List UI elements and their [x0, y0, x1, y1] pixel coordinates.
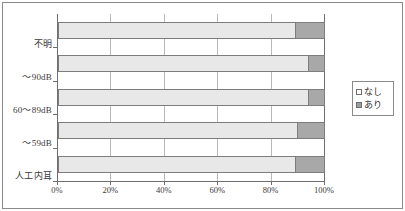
x-axis-label-3: 60%	[209, 185, 225, 195]
x-axis-label-5: 100%	[314, 185, 334, 195]
legend-item-nashi: なし	[356, 86, 390, 98]
chart-legend: なし あり	[352, 81, 394, 116]
x-axis-label-1: 20%	[103, 185, 119, 195]
y-axis-label-4: 人工内耳	[15, 169, 52, 182]
x-axis-label-4: 80%	[263, 185, 279, 195]
legend-swatch-white-icon	[356, 89, 362, 95]
y-axis-label-1: ～90dB	[22, 70, 52, 83]
y-axis-labels: 不明 ～90dB 60～89dB ～59dB 人工内耳	[0, 14, 52, 181]
y-axis-label-0: 不明	[34, 37, 52, 50]
x-axis-label-0: 0%	[51, 185, 62, 195]
legend-label-ari: あり	[364, 99, 382, 111]
y-axis-label-2: 60～89dB	[13, 103, 52, 116]
legend-item-ari: あり	[356, 99, 390, 111]
chart-figure: 不明 ～90dB 60～89dB ～59dB 人工内耳	[0, 0, 405, 211]
legend-label-nashi: なし	[364, 86, 382, 98]
x-axis-label-2: 40%	[156, 185, 172, 195]
x-axis-labels: 0% 20% 40% 60% 80% 100%	[57, 0, 325, 211]
y-axis-label-3: ～59dB	[22, 136, 52, 149]
legend-swatch-gray-icon	[356, 102, 362, 108]
